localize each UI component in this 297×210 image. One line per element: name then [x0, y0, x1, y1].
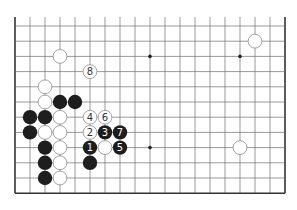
star-point	[238, 55, 242, 59]
star-point	[148, 55, 152, 59]
white-stone	[53, 110, 67, 124]
move-number: 6	[102, 112, 108, 123]
black-stone	[23, 110, 37, 124]
white-stone	[53, 50, 67, 64]
white-stone-move-6: 6	[98, 110, 112, 124]
move-number: 7	[117, 127, 123, 138]
move-number: 1	[87, 142, 93, 153]
move-number: 3	[102, 127, 108, 138]
white-stone	[53, 141, 67, 155]
black-stone	[38, 140, 52, 154]
black-stone	[83, 156, 97, 170]
white-stone	[248, 34, 262, 48]
white-stone	[38, 95, 52, 109]
white-stone	[53, 171, 67, 185]
white-stone	[53, 156, 67, 170]
black-stone	[38, 156, 52, 170]
star-point	[148, 146, 152, 150]
black-stone	[38, 110, 52, 124]
white-stone	[38, 80, 52, 94]
white-stone-move-8: 8	[83, 65, 97, 79]
move-number: 2	[87, 127, 93, 138]
black-stone	[68, 95, 82, 109]
white-stone	[53, 125, 67, 139]
white-stone	[38, 125, 52, 139]
move-number: 8	[87, 66, 93, 77]
black-stone	[53, 95, 67, 109]
black-stone	[38, 171, 52, 185]
white-stone	[98, 141, 112, 155]
black-stone	[23, 125, 37, 139]
black-stone-move-5: 5	[113, 140, 127, 154]
go-board: 84623715	[0, 0, 297, 210]
white-stone	[233, 141, 247, 155]
white-stone-move-4: 4	[83, 110, 97, 124]
black-stone-move-3: 3	[98, 125, 112, 139]
move-number: 4	[87, 112, 93, 123]
white-stone-move-2: 2	[83, 125, 97, 139]
black-stone-move-7: 7	[113, 125, 127, 139]
move-number: 5	[117, 142, 123, 153]
black-stone-move-1: 1	[83, 140, 97, 154]
